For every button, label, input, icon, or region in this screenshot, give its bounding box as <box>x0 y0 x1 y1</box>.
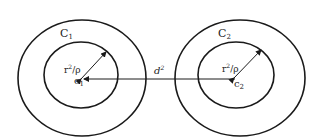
distance-label: d2 <box>154 65 164 76</box>
right-outer-circle <box>175 20 305 136</box>
left-center-label: c1 <box>74 76 84 88</box>
right-center-label: c2 <box>234 79 244 91</box>
left-radius-label: r2/ρ <box>64 64 80 75</box>
right-outer-label: C2 <box>218 28 231 41</box>
left-outer-label: C1 <box>60 28 73 41</box>
left-inner-circle <box>44 42 118 108</box>
right-inner-circle <box>198 42 274 108</box>
right-radius-label: r2/ρ <box>222 63 238 74</box>
left-radius-arrow <box>81 52 106 79</box>
